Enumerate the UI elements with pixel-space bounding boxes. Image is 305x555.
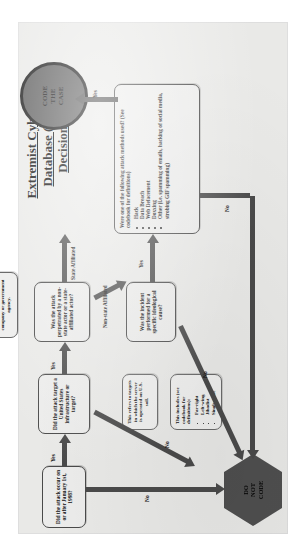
decision-node-actor-type[interactable]: Was the attack perpetrated by a non-stat… [34,282,90,342]
edge-label-no-4: No [224,205,230,212]
edge-label-no-1: No [144,495,150,502]
decision-node-attack-methods[interactable]: Were one of the following attack methods… [114,84,200,234]
edge-q3-to-methods [62,243,67,282]
attack-methods-question: Were one of the following attack methods… [119,90,131,228]
note-us-server: This refers to targets in which the serv… [122,374,158,430]
note-ideology-intro: This includes (see codebook for definiti… [175,380,192,424]
arrowhead-icon [184,456,198,471]
screenshot-page: Extremist Cybercrime Database (ECCD) Dec… [0,0,305,555]
edge-methods-to-code-vertical [84,97,118,102]
edge-q1-to-do-not-code [86,487,216,492]
edge-q1-to-q2 [62,443,67,466]
edge-label-yes-2: Yes [50,362,56,370]
arrowhead-icon [59,234,71,243]
edge-label-non-state-affiliated: Non-state Affiliated [102,285,108,328]
decision-node-ideological-cause[interactable]: Was the incident performed for a specifi… [126,282,176,342]
edge-q4-to-methods [150,243,155,282]
edge-label-yes-4: Yes [92,90,98,98]
arrowhead-icon [216,484,225,496]
decision-node-ideological-cause-label: Was the incident performed for a specifi… [139,286,163,338]
code-the-case-line-3: CASE [58,87,66,106]
decision-node-us-target-label: Did the attack target a United States in… [52,378,76,430]
attack-methods-list: Hack Data Breach Web Defacement Doxxing … [133,90,169,228]
terminal-do-not-code[interactable]: DO NOT CODE [224,454,282,526]
scanned-diagram-page: Extremist Cybercrime Database (ECCD) Dec… [18,22,288,534]
flowchart-canvas: Extremist Cybercrime Database (ECCD) Dec… [18,22,288,534]
decision-node-date-label: Did the attack occur on or after January… [55,470,73,524]
edge-q2-to-q3 [62,351,67,374]
note-state-affiliation-text: This includes both formal or informal ti… [0,278,11,332]
edge-label-no-2: No [164,441,170,448]
note-state-affiliation: This includes both formal or informal ti… [0,272,18,338]
do-not-code-line-3: CODE [257,481,264,499]
do-not-code-line-2: NOT [249,483,256,497]
note-us-server-text: This refers to targets in which the serv… [127,380,149,424]
arrowhead-icon [59,342,71,351]
edge-methods-to-do-not-code-down [200,193,250,198]
edge-label-no-3: No [202,371,208,378]
edge-label-state-affiliated: State Affiliated [70,247,76,280]
edge-methods-to-do-not-code-left [250,196,255,450]
edge-label-yes-1: Yes [50,454,56,462]
arrowhead-icon [59,434,71,443]
arrowhead-icon [147,234,159,243]
decision-node-actor-type-label: Was the attack perpetrated by a non-stat… [50,286,74,338]
decision-node-us-target[interactable]: Did the attack target a United States in… [38,374,90,434]
arrowhead-icon [247,450,259,459]
arrowhead-icon [75,94,84,106]
edge-label-yes-3: Yes [138,260,144,268]
decision-node-date[interactable]: Did the attack occur on or after January… [42,466,86,528]
do-not-code-line-1: DO [242,485,249,495]
attack-method-item: Other (i.e. spamming of emails, hacking … [157,90,169,219]
